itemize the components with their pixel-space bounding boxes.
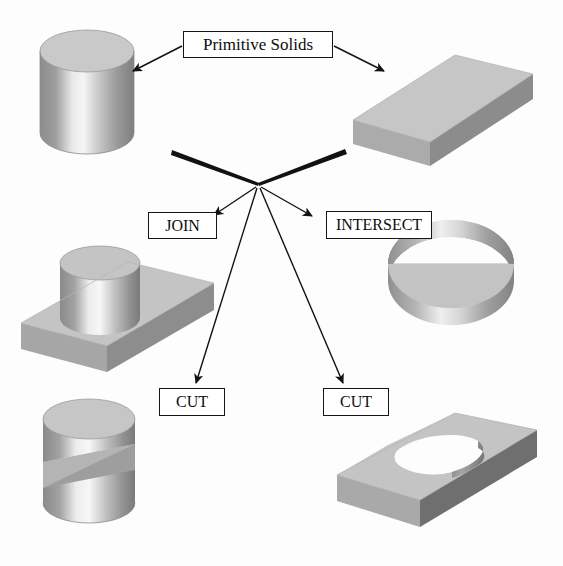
- label-join: JOIN: [148, 212, 217, 239]
- label-intersect: INTERSECT: [326, 211, 432, 239]
- label-cut-right: CUT: [323, 388, 389, 416]
- connector-block-to-hub: [258, 149, 347, 186]
- label-primitive-solids: Primitive Solids: [183, 31, 333, 58]
- solid-primitive-cylinder: [40, 30, 134, 154]
- solid-modeling-illustration: [0, 0, 563, 566]
- connector-title-to-block: [334, 46, 384, 71]
- connector-title-to-cylinder: [133, 46, 182, 71]
- diagram-canvas: Primitive Solids JOIN INTERSECT CUT CUT: [0, 0, 563, 566]
- connector-cylinder-to-hub: [171, 150, 259, 186]
- connector-hub-to-intersect: [261, 187, 312, 216]
- solid-cut-right-result: [337, 413, 537, 527]
- label-cut-left: CUT: [159, 388, 225, 416]
- solid-primitive-block: [353, 55, 533, 166]
- solid-join-result: [21, 246, 214, 372]
- solid-cut-left-result: [43, 399, 135, 523]
